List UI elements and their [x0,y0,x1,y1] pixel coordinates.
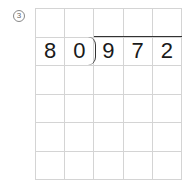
grid-cell[interactable] [35,94,64,123]
grid-cell[interactable] [123,65,152,94]
grid-cell[interactable] [64,94,93,123]
grid-cell[interactable] [123,151,152,180]
grid-cell[interactable] [64,65,93,94]
dividend-digit: 7 [123,37,152,66]
grid-cell[interactable] [123,94,152,123]
grid-cell[interactable] [35,8,64,37]
grid-cell[interactable] [35,151,64,180]
problem-number-badge: 3 [13,10,25,22]
grid-cell[interactable] [152,65,181,94]
grid-cell[interactable] [123,8,152,37]
grid-cell[interactable] [152,151,181,180]
division-bracket [88,37,96,65]
grid-cell[interactable] [93,122,122,151]
grid-cell[interactable] [64,151,93,180]
grid-cell[interactable] [35,122,64,151]
grid-cell[interactable] [123,122,152,151]
grid-cell[interactable] [93,94,122,123]
grid-cell[interactable] [64,8,93,37]
grid-cell[interactable] [93,8,122,37]
dividend-digit: 2 [152,37,181,66]
grid-cell[interactable] [152,122,181,151]
dividend-digit: 9 [93,37,122,66]
divisor-digit: 8 [35,37,64,66]
grid-cell[interactable] [93,65,122,94]
division-bar [94,36,182,37]
long-division-grid: 8 0 9 7 2 [35,8,182,180]
grid-cell[interactable] [35,65,64,94]
grid-cell[interactable] [64,122,93,151]
grid-cell[interactable] [152,8,181,37]
grid-cell[interactable] [152,94,181,123]
grid-cell[interactable] [93,151,122,180]
